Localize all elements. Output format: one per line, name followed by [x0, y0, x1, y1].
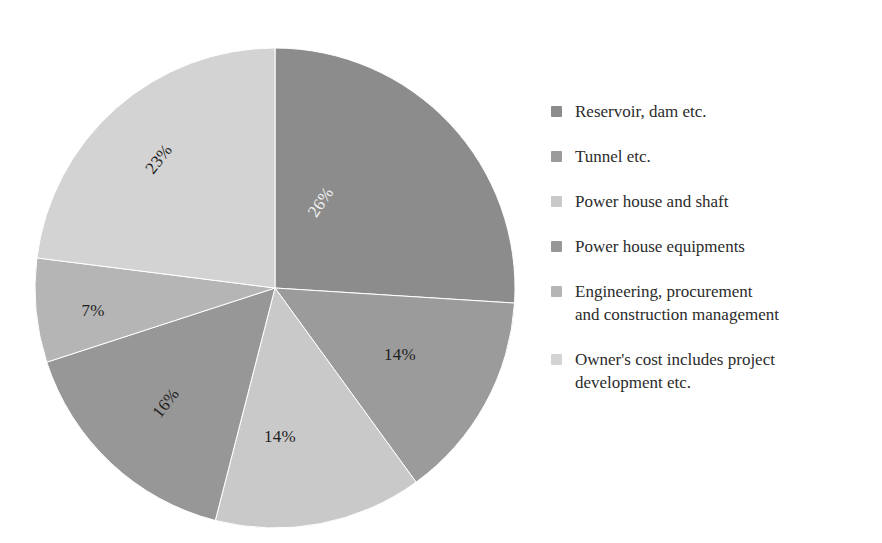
pie-svg: 26%14%14%16%7%23%: [0, 0, 530, 543]
legend-swatch-icon: [551, 354, 562, 365]
legend-item-label: Power house and shaft: [575, 190, 728, 213]
legend-item-label: Owner's cost includes project developmen…: [575, 348, 775, 394]
legend-item-label: Tunnel etc.: [575, 145, 651, 168]
legend-swatch-icon: [551, 151, 562, 162]
pie-slice-label: 14%: [264, 427, 296, 446]
legend-item-label: Power house equipments: [575, 235, 745, 258]
pie-slice[interactable]: [275, 48, 515, 303]
legend-item[interactable]: Owner's cost includes project developmen…: [551, 348, 871, 394]
legend-item-label: Reservoir, dam etc.: [575, 100, 707, 123]
legend-swatch-icon: [551, 286, 562, 297]
legend-item[interactable]: Power house and shaft: [551, 190, 871, 213]
legend-item[interactable]: Reservoir, dam etc.: [551, 100, 871, 123]
legend-swatch-icon: [551, 106, 562, 117]
legend-swatch-icon: [551, 196, 562, 207]
legend: Reservoir, dam etc. Tunnel etc. Power ho…: [551, 100, 871, 394]
pie-chart: 26%14%14%16%7%23% Reservoir, dam etc. Tu…: [0, 0, 882, 543]
legend-item[interactable]: Tunnel etc.: [551, 145, 871, 168]
legend-swatch-icon: [551, 241, 562, 252]
pie-slice-group: [35, 48, 515, 528]
legend-item[interactable]: Power house equipments: [551, 235, 871, 258]
pie-plot-area: 26%14%14%16%7%23%: [0, 0, 530, 543]
pie-slice-label: 7%: [81, 301, 104, 320]
legend-item-label: Engineering, procurement and constructio…: [575, 280, 779, 326]
pie-slice-label: 14%: [384, 345, 416, 364]
legend-item[interactable]: Engineering, procurement and constructio…: [551, 280, 871, 326]
